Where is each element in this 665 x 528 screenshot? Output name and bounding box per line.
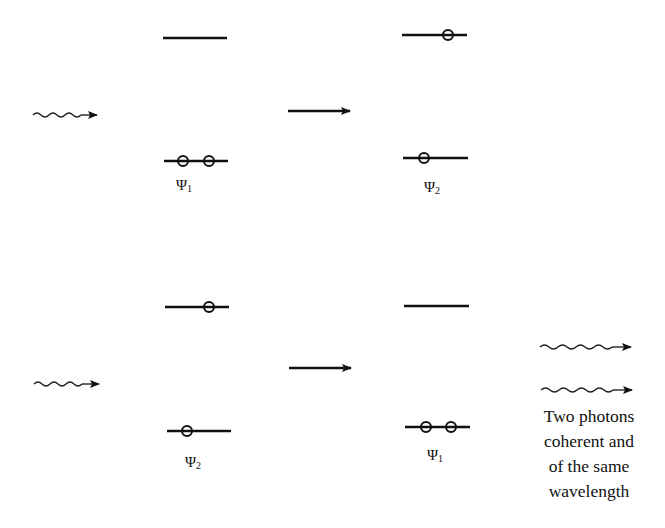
caption-line: Two photons xyxy=(533,404,645,429)
top-incoming-photon-icon xyxy=(33,113,97,117)
photon-caption: Two photons coherent and of the same wav… xyxy=(533,404,645,504)
top-left-state-label: Ψ1 xyxy=(176,178,192,194)
caption-line: of the same xyxy=(533,454,645,479)
bottom-right-state xyxy=(404,306,470,432)
caption-line: coherent and xyxy=(533,429,645,454)
bottom-incoming-photon-icon xyxy=(34,382,99,386)
outgoing-photon-1-icon xyxy=(540,345,631,349)
bottom-right-state-label: Ψ1 xyxy=(427,448,443,464)
bottom-left-state xyxy=(165,302,231,436)
bottom-left-state-label: Ψ2 xyxy=(185,455,201,471)
top-right-state-label: Ψ2 xyxy=(424,180,440,196)
caption-line: wavelength xyxy=(533,479,645,504)
top-left-state xyxy=(163,38,228,166)
outgoing-photon-2-icon xyxy=(541,388,632,392)
top-right-state xyxy=(402,30,468,163)
